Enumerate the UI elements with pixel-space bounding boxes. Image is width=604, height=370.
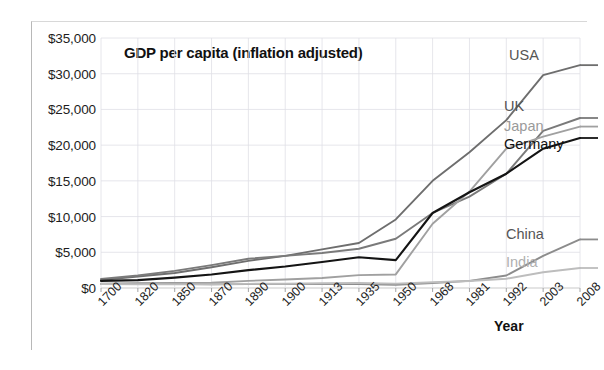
- y-axis-tick-label: $15,000: [48, 173, 96, 188]
- series-label-india: India: [506, 254, 537, 270]
- x-axis-title: Year: [494, 318, 524, 334]
- series-label-uk: UK: [504, 98, 524, 114]
- y-axis-tick-label: $5,000: [55, 245, 96, 260]
- y-axis-tick-label: $0: [81, 281, 96, 296]
- y-axis-tick-label: $10,000: [48, 209, 96, 224]
- series-lines: [101, 38, 580, 288]
- plot-area: [101, 38, 580, 288]
- y-axis-tick-label: $20,000: [48, 138, 96, 153]
- series-label-china: China: [506, 226, 544, 242]
- y-axis-tick-label: $25,000: [48, 102, 96, 117]
- series-label-usa: USA: [509, 47, 539, 63]
- series-label-germany: Germany: [504, 136, 564, 152]
- y-axis-tick-label: $30,000: [48, 66, 96, 81]
- y-axis-tick-label: $35,000: [48, 31, 96, 46]
- series-label-japan: Japan: [504, 118, 544, 134]
